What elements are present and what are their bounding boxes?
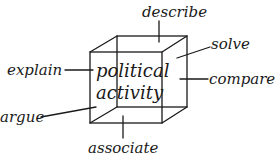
connector-argue: [41, 107, 96, 117]
label-compare: compare: [209, 72, 275, 87]
cube-edge: [90, 36, 117, 52]
cube-edge: [162, 107, 187, 123]
label-solve: solve: [211, 37, 250, 52]
cube-diagram: describe solve compare explain argue ass…: [0, 0, 275, 161]
label-associate: associate: [88, 141, 158, 156]
center-label-political: political: [96, 62, 169, 80]
label-describe: describe: [142, 5, 207, 20]
cube-edge: [90, 107, 117, 123]
label-explain: explain: [7, 63, 62, 78]
center-label-activity: activity: [96, 84, 163, 102]
cube-edge: [162, 36, 187, 52]
connector-solve: [177, 47, 210, 58]
label-argue: argue: [0, 110, 44, 125]
